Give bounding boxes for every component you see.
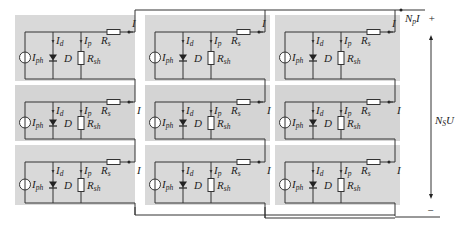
- plus-terminal: +: [428, 12, 435, 24]
- pv-array-diagram: IphIdDIpRshRsIIphIdDIpRshRsIIphIdDIpRshR…: [0, 0, 467, 229]
- label-i-out: I: [136, 164, 142, 176]
- series-resistor-icon: [237, 30, 250, 35]
- cell-panel-r1-c2: [145, 15, 270, 81]
- series-resistor-icon: [107, 30, 120, 35]
- label-d: D: [323, 117, 332, 129]
- cell-panel-r2-c1: [15, 85, 135, 141]
- label-d: D: [63, 179, 72, 191]
- minus-terminal: −: [427, 204, 434, 216]
- label-d: D: [63, 52, 72, 64]
- series-resistor-icon: [237, 100, 250, 105]
- label-d: D: [323, 52, 332, 64]
- label-d: D: [193, 117, 202, 129]
- shunt-resistor-icon: [78, 179, 84, 192]
- series-resistor-icon: [367, 160, 380, 165]
- shunt-resistor-icon: [338, 52, 344, 65]
- series-resistor-icon: [367, 100, 380, 105]
- shunt-resistor-icon: [78, 52, 84, 65]
- label-ns-u: NSU: [434, 114, 455, 128]
- series-resistor-icon: [107, 160, 120, 165]
- cell-panel-r1-c1: [15, 15, 135, 81]
- label-d: D: [193, 179, 202, 191]
- shunt-resistor-icon: [208, 117, 214, 130]
- cell-panel-r2-c3: [275, 85, 400, 141]
- label-i-out: I: [396, 104, 402, 116]
- cell-panel-r3-c3: [275, 145, 400, 205]
- cell-panel-r3-c1: [15, 145, 135, 205]
- label-i-out: I: [136, 104, 142, 116]
- shunt-resistor-icon: [78, 117, 84, 130]
- label-i-out: I: [131, 17, 137, 29]
- label-d: D: [63, 117, 72, 129]
- cell-panel-r2-c2: [145, 85, 270, 141]
- shunt-resistor-icon: [338, 117, 344, 130]
- shunt-resistor-icon: [338, 179, 344, 192]
- shunt-resistor-icon: [208, 52, 214, 65]
- label-d: D: [323, 179, 332, 191]
- series-resistor-icon: [237, 160, 250, 165]
- label-i-out: I: [266, 164, 272, 176]
- circuit-svg: IphIdDIpRshRsIIphIdDIpRshRsIIphIdDIpRshR…: [0, 0, 467, 229]
- label-i-out: I: [266, 104, 272, 116]
- label-i-out: I: [396, 164, 402, 176]
- label-d: D: [193, 52, 202, 64]
- series-resistor-icon: [367, 30, 380, 35]
- cell-panel-r3-c2: [145, 145, 270, 205]
- series-resistor-icon: [107, 100, 120, 105]
- cell-panel-r1-c3: [275, 15, 400, 81]
- shunt-resistor-icon: [208, 179, 214, 192]
- label-np-i: NpI: [404, 12, 421, 26]
